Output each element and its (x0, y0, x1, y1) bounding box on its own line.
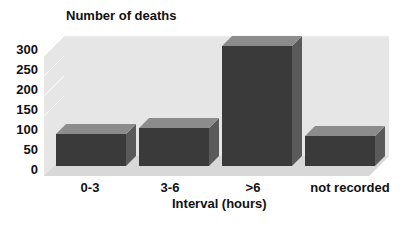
bar-front (139, 128, 209, 166)
y-tick: 150 (0, 102, 38, 117)
bar-front (56, 134, 126, 166)
bar (305, 126, 385, 166)
x-tick: 3-6 (150, 180, 190, 195)
bar (222, 36, 302, 166)
x-tick: not recorded (295, 180, 405, 195)
bar-top (222, 36, 302, 46)
bar (139, 118, 219, 166)
y-tick: 300 (0, 42, 38, 57)
bar-top (305, 126, 385, 136)
y-tick: 250 (0, 62, 38, 77)
x-tick: >6 (233, 180, 273, 195)
bar-front (305, 136, 375, 166)
bar-top (139, 118, 219, 128)
bar-side (292, 36, 302, 166)
bar (56, 124, 136, 166)
bar-top (56, 124, 136, 134)
y-tick: 50 (0, 142, 38, 157)
y-tick: 200 (0, 82, 38, 97)
bar-front (222, 46, 292, 166)
x-tick: 0-3 (70, 180, 110, 195)
y-tick: 0 (0, 162, 38, 177)
x-axis-label: Interval (hours) (172, 196, 267, 211)
y-tick: 100 (0, 122, 38, 137)
